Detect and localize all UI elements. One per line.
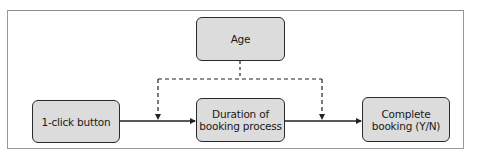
node-one-click-button: 1-click button: [32, 100, 120, 143]
node-duration: Duration of booking process: [196, 98, 285, 142]
node-age: Age: [196, 17, 285, 61]
node-age-label: Age: [231, 33, 251, 45]
node-complete-label: Complete booking (Y/N): [372, 108, 441, 132]
node-duration-label: Duration of booking process: [199, 108, 282, 132]
node-one-click-label: 1-click button: [41, 116, 110, 128]
node-complete-booking: Complete booking (Y/N): [362, 97, 450, 142]
